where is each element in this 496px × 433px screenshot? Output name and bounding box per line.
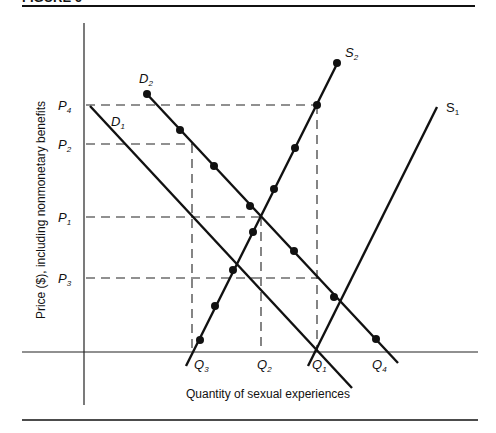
svg-text:Q4: Q4 [372,357,387,374]
x-axis-title: Quantity of sexual experiences [186,387,350,401]
figure-caption: FIGURE 6 [22,0,82,5]
label-d1: D1 [111,114,125,131]
label-d2: D2 [139,71,153,88]
svg-text:Q3: Q3 [194,357,209,374]
quantity-labels: Q3 Q2 Q1 Q4 [194,357,387,374]
demand-curve-d1 [90,106,352,388]
curve-labels: D1 D2 S1 S2 [111,45,460,131]
supply-curve-s1 [308,107,437,366]
price-labels: P4 P2 P1 P3 [58,98,72,288]
svg-text:P1: P1 [58,210,71,227]
supply-demand-diagram: FIGURE 6 P4 [0,0,496,433]
y-axis-title: Price ($), including nonmonetary benefit… [34,101,48,319]
svg-text:P2: P2 [58,137,72,154]
svg-text:P3: P3 [58,271,72,288]
label-s2: S2 [345,45,359,62]
svg-text:P4: P4 [58,98,72,115]
svg-text:Q2: Q2 [257,357,272,374]
label-s1: S1 [446,100,460,117]
